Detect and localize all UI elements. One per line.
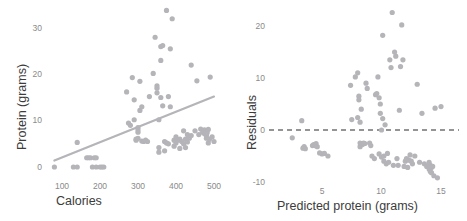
data-point: [382, 122, 387, 127]
data-point: [412, 153, 417, 158]
y-tick-label: 0: [20, 162, 42, 172]
x-tick-label: 10: [367, 186, 395, 196]
data-point: [158, 58, 163, 63]
y-axis-title: Protein (grams): [15, 64, 29, 150]
data-point: [419, 111, 424, 116]
data-point: [355, 115, 360, 120]
data-point: [189, 62, 194, 67]
data-point: [375, 74, 380, 79]
data-point: [124, 89, 129, 94]
x-axis-title: Predicted protein (grams): [277, 199, 418, 213]
data-point: [380, 116, 385, 121]
data-point: [393, 54, 398, 59]
data-point: [154, 90, 159, 95]
data-point: [290, 135, 295, 140]
scatter-panel-calories-protein: 30 20 10 0 100 200 300 400 500 Calories …: [0, 0, 233, 221]
data-point: [166, 141, 171, 146]
data-point: [372, 156, 377, 161]
data-point: [355, 70, 360, 75]
data-point: [407, 152, 412, 157]
data-point: [357, 120, 362, 125]
data-point: [156, 150, 161, 155]
data-point: [153, 35, 158, 40]
data-point: [410, 161, 415, 166]
data-point: [132, 117, 137, 122]
data-point: [359, 107, 364, 112]
data-point: [183, 145, 188, 150]
data-point: [391, 163, 396, 168]
data-point: [211, 139, 216, 144]
data-point: [210, 134, 215, 139]
data-point: [377, 95, 382, 100]
data-point: [132, 97, 137, 102]
x-tick-label: 15: [427, 186, 455, 196]
data-point: [380, 33, 385, 38]
data-point: [315, 144, 320, 149]
data-point: [101, 164, 106, 169]
data-point: [379, 127, 384, 132]
data-point: [158, 95, 163, 100]
data-point: [181, 128, 186, 133]
data-point: [400, 57, 405, 62]
data-point: [368, 143, 373, 148]
data-point: [75, 140, 80, 145]
data-point: [192, 128, 197, 133]
data-point: [386, 160, 391, 165]
data-point: [139, 104, 144, 109]
data-point: [398, 64, 403, 69]
y-tick-label: 30: [20, 23, 42, 33]
data-point: [348, 83, 353, 88]
data-point: [130, 75, 135, 80]
data-point: [151, 71, 156, 76]
data-point: [166, 94, 171, 99]
data-point: [52, 164, 57, 169]
data-point: [206, 127, 211, 132]
data-point: [362, 141, 367, 146]
data-point: [208, 75, 213, 80]
data-point: [394, 156, 399, 161]
data-point: [135, 130, 140, 135]
y-tick-label: 10: [241, 73, 265, 83]
data-point: [390, 10, 395, 15]
data-point: [435, 175, 440, 180]
data-point: [299, 118, 304, 123]
data-point: [156, 117, 161, 122]
data-point: [94, 155, 99, 160]
data-point: [378, 111, 383, 116]
data-point: [325, 153, 330, 158]
left-plot-canvas: [0, 0, 233, 221]
data-point: [415, 82, 420, 87]
data-point: [75, 164, 80, 169]
data-point: [396, 163, 401, 168]
data-point: [170, 16, 175, 21]
x-axis-title: Calories: [56, 194, 102, 208]
scatter-panel-residuals: 20 10 0 -10 5 10 15 Predicted protein (g…: [233, 0, 467, 221]
data-point: [417, 160, 422, 165]
data-point: [168, 104, 173, 109]
data-point: [438, 104, 443, 109]
data-point: [349, 117, 354, 122]
y-tick-label: -10: [241, 177, 265, 187]
y-tick-label: 20: [241, 21, 265, 31]
data-point: [432, 106, 437, 111]
data-point: [168, 46, 173, 51]
data-point: [160, 103, 165, 108]
data-point: [387, 57, 392, 62]
data-point: [162, 148, 167, 153]
data-point: [154, 86, 159, 91]
data-point: [189, 133, 194, 138]
data-point: [160, 43, 165, 48]
x-tick-label: 200: [86, 181, 114, 191]
data-point: [128, 123, 133, 128]
x-tick-label: 100: [48, 181, 76, 191]
data-point: [147, 94, 152, 99]
data-point: [365, 86, 370, 91]
data-point: [137, 79, 142, 84]
data-point: [397, 108, 402, 113]
data-point: [378, 101, 383, 106]
data-point: [430, 164, 435, 169]
data-point: [399, 22, 404, 27]
data-point: [177, 146, 182, 151]
trend-line: [54, 97, 214, 161]
data-point: [388, 65, 393, 70]
